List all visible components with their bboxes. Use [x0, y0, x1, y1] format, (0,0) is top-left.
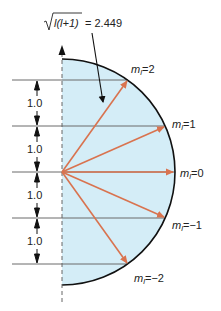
svg-text:l(l+1): l(l+1) — [54, 17, 79, 29]
spacing-label: 1.0 — [27, 143, 42, 155]
ml-label-1: ml=1 — [172, 118, 196, 132]
ml-label-minus-1: ml=−1 — [172, 219, 202, 233]
spacing-label: 1.0 — [27, 235, 42, 247]
angular-momentum-diagram: 1.0 1.0 1.0 1.0 l(l+1) = 2.449 ml=2 ml=1… — [0, 0, 221, 311]
magnitude-label: l(l+1) = 2.449 — [44, 13, 122, 30]
ml-label-2: ml=2 — [131, 63, 155, 77]
ml-label-minus-2: ml=−2 — [134, 272, 164, 286]
svg-text:= 2.449: = 2.449 — [85, 17, 122, 29]
spacing-label: 1.0 — [27, 97, 42, 109]
spacing-label: 1.0 — [27, 189, 42, 201]
z-axis-arrow-icon — [59, 45, 66, 55]
ml-label-0: ml=0 — [180, 167, 204, 181]
